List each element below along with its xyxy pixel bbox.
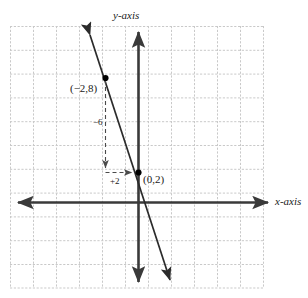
point-label-a: (−2,8)	[70, 83, 97, 94]
point-marker-b	[135, 169, 141, 175]
x-axis-label: x-axis	[275, 196, 301, 207]
rise-label: −6	[93, 118, 103, 127]
point-label-b: (0,2)	[143, 174, 164, 185]
graph-canvas	[0, 0, 308, 298]
run-label: +2	[110, 177, 120, 186]
coordinate-plane-figure: y-axis x-axis (−2,8) (0,2) −6 +2	[0, 0, 308, 298]
point-marker-a	[102, 75, 108, 81]
grid-lines	[10, 26, 264, 288]
y-axis-label: y-axis	[113, 10, 139, 21]
